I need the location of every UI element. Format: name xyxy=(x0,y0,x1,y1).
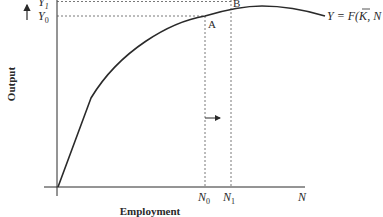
production-function-diagram: Y1 Y0 A B Y = F(K, N N0 N1 N Employment … xyxy=(0,0,383,217)
y-axis-title: Output xyxy=(5,67,17,102)
curve-label: Y = F(K, N xyxy=(327,9,382,23)
n0-label: N0 xyxy=(197,190,210,206)
production-curve xyxy=(58,6,325,187)
x-axis-title: Employment xyxy=(120,205,181,217)
n1-label: N1 xyxy=(222,190,235,206)
point-b-label: B xyxy=(233,0,240,9)
x-axis-end-label: N xyxy=(297,190,307,204)
point-a-label: A xyxy=(208,18,216,30)
y0-label: Y0 xyxy=(38,9,49,25)
